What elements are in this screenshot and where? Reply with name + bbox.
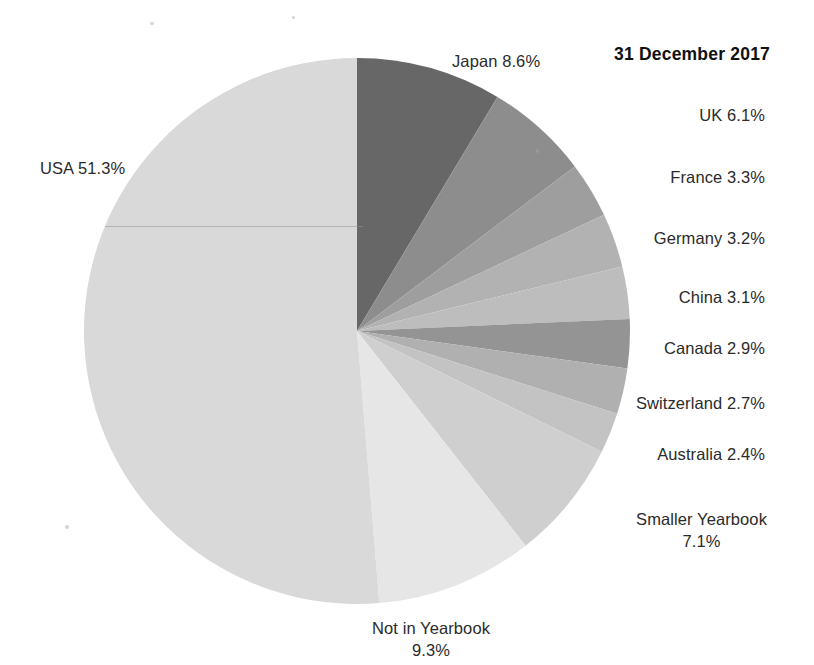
slice-label-australia: Australia 2.4% xyxy=(657,443,765,465)
pie-slices-group xyxy=(84,58,630,604)
scan-artifact-line xyxy=(105,226,363,227)
slice-label-not-in-yearbook-line2: 9.3% xyxy=(372,639,490,661)
pie-slice-usa[interactable] xyxy=(84,58,379,604)
slice-label-china: China 3.1% xyxy=(679,286,765,308)
chart-title: 31 December 2017 xyxy=(614,44,770,65)
slice-label-germany: Germany 3.2% xyxy=(654,227,765,249)
pie-chart-page: 31 December 2017 Japan 8.6% UK 6.1% Fran… xyxy=(0,0,814,665)
slice-label-smaller-yearbook: Smaller Yearbook 7.1% xyxy=(636,508,767,553)
slice-label-not-in-yearbook-line1: Not in Yearbook xyxy=(372,619,490,637)
slice-label-japan: Japan 8.6% xyxy=(452,50,540,72)
slice-label-not-in-yearbook: Not in Yearbook 9.3% xyxy=(372,617,490,662)
pie-chart-svg xyxy=(0,0,814,665)
scan-speck xyxy=(292,16,295,19)
slice-label-usa: USA 51.3% xyxy=(40,157,125,179)
slice-label-smaller-yearbook-line2: 7.1% xyxy=(636,530,767,552)
slice-label-smaller-yearbook-line1: Smaller Yearbook xyxy=(636,510,767,528)
slice-label-canada: Canada 2.9% xyxy=(664,337,765,359)
slice-label-switzerland: Switzerland 2.7% xyxy=(636,392,765,414)
scan-speck xyxy=(536,149,539,153)
slice-label-uk: UK 6.1% xyxy=(699,104,765,126)
scan-speck xyxy=(150,22,154,25)
scan-speck xyxy=(65,525,69,529)
slice-label-france: France 3.3% xyxy=(670,166,765,188)
